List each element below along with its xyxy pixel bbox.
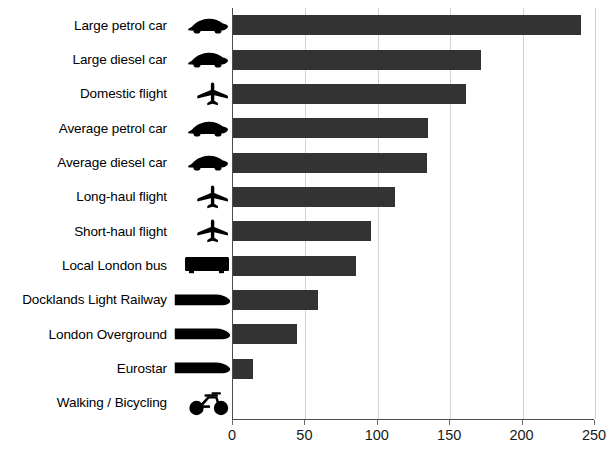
- category-row: Eurostar: [0, 351, 232, 385]
- category-label: Eurostar: [0, 361, 174, 376]
- category-row: Walking / Bicycling: [0, 386, 232, 420]
- gridline: [450, 8, 451, 419]
- bar: [233, 221, 371, 241]
- x-axis-tick: [304, 420, 305, 425]
- bus-icon: [174, 252, 232, 278]
- bar: [233, 324, 297, 344]
- train-icon: [174, 355, 232, 381]
- category-label: Large diesel car: [0, 52, 174, 67]
- category-row: Large petrol car: [0, 8, 232, 42]
- bar: [233, 84, 466, 104]
- bicycle-icon: [174, 390, 232, 416]
- car-icon: [174, 46, 232, 72]
- x-axis-tick: [449, 420, 450, 425]
- bar: [233, 187, 395, 207]
- x-axis-tick: [522, 420, 523, 425]
- category-row: Local London bus: [0, 248, 232, 282]
- x-axis-tick: [232, 420, 233, 425]
- category-row: Large diesel car: [0, 42, 232, 76]
- category-label: Long-haul flight: [0, 189, 174, 204]
- x-axis-tick: [594, 420, 595, 425]
- car-icon: [174, 149, 232, 175]
- category-label: Average petrol car: [0, 121, 174, 136]
- category-label: Docklands Light Railway: [0, 292, 174, 307]
- gridline: [305, 8, 306, 419]
- x-axis-tick: [377, 420, 378, 425]
- category-row: Average diesel car: [0, 145, 232, 179]
- category-label: Short-haul flight: [0, 224, 174, 239]
- airplane-icon: [174, 81, 232, 107]
- category-label: Walking / Bicycling: [0, 395, 174, 410]
- category-label: Domestic flight: [0, 86, 174, 101]
- category-row: Average petrol car: [0, 111, 232, 145]
- car-icon: [174, 12, 232, 38]
- category-axis: Large petrol carLarge diesel carDomestic…: [0, 8, 232, 420]
- gridline: [523, 8, 524, 419]
- x-axis-tick-label: 0: [202, 427, 262, 444]
- category-label: Local London bus: [0, 258, 174, 273]
- category-row: Short-haul flight: [0, 214, 232, 248]
- category-row: Domestic flight: [0, 77, 232, 111]
- airplane-icon: [174, 184, 232, 210]
- gridline: [595, 8, 596, 419]
- category-label: Large petrol car: [0, 18, 174, 33]
- bar: [233, 359, 253, 379]
- bar: [233, 290, 318, 310]
- bar: [233, 15, 581, 35]
- category-row: London Overground: [0, 317, 232, 351]
- x-axis-tick-label: 50: [274, 427, 334, 444]
- category-label: London Overground: [0, 327, 174, 342]
- bar: [233, 50, 481, 70]
- x-axis-tick-label: 150: [419, 427, 479, 444]
- car-icon: [174, 115, 232, 141]
- airplane-icon: [174, 218, 232, 244]
- x-axis-tick-label: 100: [347, 427, 407, 444]
- gridline: [378, 8, 379, 419]
- bar: [233, 118, 428, 138]
- bar: [233, 153, 427, 173]
- x-axis-tick-label: 200: [492, 427, 552, 444]
- plot-area: [232, 8, 594, 420]
- category-label: Average diesel car: [0, 155, 174, 170]
- category-row: Docklands Light Railway: [0, 283, 232, 317]
- train-icon: [174, 287, 232, 313]
- train-icon: [174, 321, 232, 347]
- bar: [233, 256, 356, 276]
- x-axis-tick-label: 250: [564, 427, 611, 444]
- category-row: Long-haul flight: [0, 180, 232, 214]
